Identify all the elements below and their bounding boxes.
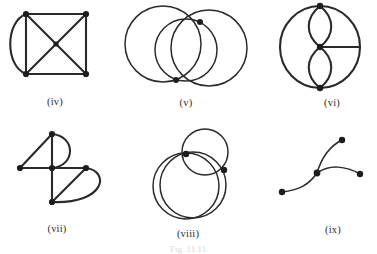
figure-vii-drawing: [14, 128, 114, 220]
circle-right: [171, 10, 247, 86]
edge-bottom-right: [52, 168, 86, 202]
circle-large-left: [153, 153, 219, 219]
arc-right-bottom: [52, 168, 100, 202]
circle-large-right: [160, 152, 226, 218]
figure-viii-label: (viii): [177, 228, 199, 239]
vertex: [23, 11, 29, 17]
vertex-lower: [221, 167, 227, 173]
vertex-top-right: [339, 137, 345, 143]
edge-top-left: [20, 134, 52, 168]
vertex-top: [49, 131, 55, 137]
upper-lens-left: [309, 6, 320, 47]
curve-lower-left: [282, 173, 317, 192]
vertex: [197, 19, 203, 25]
vertex-centre: [49, 165, 55, 171]
vertex-middle: [314, 170, 321, 177]
figure-iv-drawing: [4, 4, 112, 92]
figure-vi-drawing: [270, 2, 374, 94]
figure-v: [123, 2, 249, 94]
figure-v-label: (v): [180, 97, 193, 108]
vertex-crossing: [53, 41, 58, 46]
left-arc: [10, 14, 26, 74]
figure-ix-drawing: [272, 132, 372, 214]
figure-vii: [14, 128, 114, 220]
curve-right: [317, 167, 360, 174]
upper-lens-right: [320, 6, 331, 47]
vertex: [173, 77, 179, 83]
vertex-upper: [183, 151, 189, 157]
figure-iv-label: (iv): [47, 96, 63, 107]
figure-viii-drawing: [140, 126, 244, 224]
circle-centre: [155, 19, 217, 81]
figure-vi: [270, 2, 374, 94]
vertex: [83, 11, 89, 17]
arc-top-centre: [52, 134, 70, 168]
figure-iv: [4, 4, 112, 92]
vertex-bottom: [49, 199, 55, 205]
vertex-bottom: [317, 85, 323, 91]
sheet-caption: Fig. 11.11: [170, 244, 206, 254]
vertex-lower-left: [279, 189, 285, 195]
figure-viii: [140, 126, 244, 224]
vertex: [83, 71, 89, 77]
figure-vii-label: (vii): [47, 223, 66, 234]
vertex-left: [17, 165, 23, 171]
figure-ix: [272, 132, 372, 214]
vertex: [23, 71, 29, 77]
vertex-centre: [317, 44, 323, 50]
lower-lens-right: [320, 47, 331, 88]
figure-ix-label: (ix): [325, 224, 341, 235]
vertex-top: [317, 3, 323, 9]
figure-vi-label: (vi): [324, 97, 340, 108]
vertex-right: [83, 165, 89, 171]
lower-lens-left: [309, 47, 320, 88]
vertex-right: [357, 171, 363, 177]
figure-v-drawing: [123, 2, 249, 94]
